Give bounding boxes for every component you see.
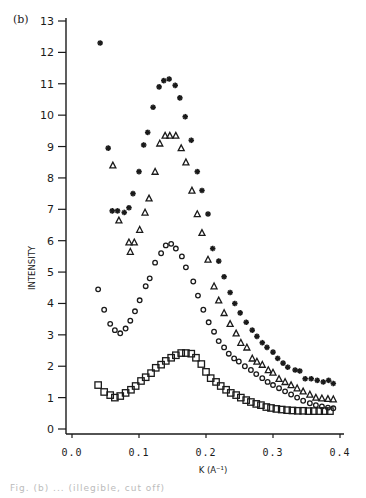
diamond-marker <box>265 380 270 385</box>
diamond-marker <box>289 392 294 397</box>
diamond-marker <box>113 328 118 333</box>
square-marker <box>203 369 209 375</box>
triangle-marker <box>227 321 233 327</box>
diamond-marker <box>123 326 128 331</box>
diamond-marker <box>201 307 206 312</box>
triangle-marker <box>288 382 294 388</box>
star-marker <box>199 188 205 194</box>
y-axis-label: INTENSITY <box>27 245 37 290</box>
star-marker <box>326 378 332 384</box>
diamond-marker <box>184 265 189 270</box>
x-tick-label: 0.0 <box>61 447 82 458</box>
diamond-marker <box>222 345 227 350</box>
star-marker <box>331 381 337 387</box>
y-tick-label: 1 <box>47 392 54 405</box>
triangle-marker <box>183 159 189 165</box>
star-marker <box>145 130 151 136</box>
triangle-marker <box>270 369 276 375</box>
y-tick-label: 0 <box>47 423 54 436</box>
star-marker <box>109 208 115 214</box>
star-marker <box>172 83 178 89</box>
triangle-marker <box>173 132 179 138</box>
star-marker <box>259 340 265 346</box>
star-marker <box>275 356 281 362</box>
star-marker <box>264 345 270 351</box>
star-marker <box>105 145 111 151</box>
star-marker <box>136 169 142 175</box>
star-marker <box>320 379 326 385</box>
diamond-marker <box>301 398 306 403</box>
y-tick-label: 6 <box>47 235 54 248</box>
diamond-marker <box>249 368 254 373</box>
diamond-marker <box>159 251 164 256</box>
diamond-marker <box>237 359 242 364</box>
triangle-marker <box>110 162 116 168</box>
star-marker <box>182 114 188 120</box>
star-marker <box>270 349 276 355</box>
square-marker <box>193 355 199 361</box>
triangle-marker <box>142 209 148 215</box>
triangle-marker <box>276 376 282 382</box>
y-tick-label: 8 <box>47 172 54 185</box>
triangle-marker <box>211 283 217 289</box>
diamond-marker <box>133 309 138 314</box>
triangle-marker <box>330 396 336 402</box>
x-tick-label: 0.2 <box>195 447 216 458</box>
triangle-marker <box>325 396 331 402</box>
star-marker <box>221 274 227 280</box>
diamond-marker <box>277 386 282 391</box>
star-marker <box>188 137 194 143</box>
star-marker <box>237 310 243 316</box>
diamond-marker <box>254 372 259 377</box>
y-tick-label: 12 <box>40 46 54 59</box>
star-marker <box>216 258 222 264</box>
star-marker <box>232 301 238 307</box>
y-tick-label: 13 <box>40 15 54 28</box>
diamond-marker <box>295 395 300 400</box>
triangle-marker <box>259 361 265 367</box>
scatter-chart: 0123456789101112130.00.10.20.30.4K (A⁻¹)… <box>0 0 366 498</box>
star-marker <box>302 376 308 382</box>
diamond-marker <box>174 246 179 251</box>
star-marker <box>280 360 286 366</box>
star-marker <box>249 327 255 333</box>
diamond-marker <box>196 293 201 298</box>
triangle-marker <box>167 132 173 138</box>
diamond-marker <box>308 401 313 406</box>
star-marker <box>243 319 249 325</box>
diamond-marker <box>169 242 174 247</box>
star-marker <box>297 368 303 374</box>
diamond-marker <box>232 356 237 361</box>
triangle-marker <box>116 217 122 223</box>
triangle-marker <box>194 211 200 217</box>
y-tick-label: 5 <box>47 266 54 279</box>
triangle-marker <box>146 195 152 201</box>
diamond-marker <box>108 322 113 327</box>
star-marker <box>156 84 162 90</box>
triangle-marker <box>307 391 313 397</box>
diamond-marker <box>226 351 231 356</box>
diamond-marker <box>180 254 185 259</box>
diamond-marker <box>271 383 276 388</box>
star-marker <box>210 246 216 252</box>
star-marker <box>292 367 298 373</box>
triangle-marker <box>319 395 325 401</box>
star-marker <box>161 78 167 84</box>
y-tick-label: 4 <box>47 297 54 310</box>
x-tick-label: 0.4 <box>329 447 350 458</box>
diamond-marker <box>216 339 221 344</box>
star-marker <box>285 364 291 370</box>
star-marker <box>126 205 132 211</box>
diamond-marker <box>243 364 248 369</box>
y-tick-label: 7 <box>47 203 54 216</box>
diamond-marker <box>314 403 319 408</box>
star-marker <box>97 40 103 46</box>
triangle-marker <box>199 230 205 236</box>
diamond-marker <box>153 260 158 265</box>
triangle-marker <box>178 145 184 151</box>
star-marker <box>308 376 314 382</box>
diamond-marker <box>283 389 288 394</box>
star-marker <box>194 169 200 175</box>
diamond-marker <box>206 320 211 325</box>
star-marker <box>227 290 233 296</box>
